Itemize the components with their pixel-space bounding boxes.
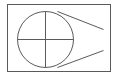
upper-tangent-line (58, 12, 104, 30)
lower-tangent-line (58, 51, 104, 68)
diagram-canvas (0, 0, 115, 77)
